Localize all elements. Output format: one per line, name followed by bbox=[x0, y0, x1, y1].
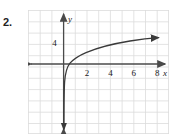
logarithmic-curve bbox=[64, 38, 159, 129]
problem-number: 2. bbox=[3, 17, 12, 28]
y-axis-label: y bbox=[67, 14, 72, 24]
curve-down-arrowhead bbox=[61, 123, 67, 131]
figure-container: 2. bbox=[0, 0, 172, 137]
graph-panel: 4 2 4 6 8 x y bbox=[28, 10, 169, 134]
x-tick-label-6: 6 bbox=[132, 68, 137, 78]
x-tick-label-4: 4 bbox=[108, 68, 113, 78]
y-tick-label-4: 4 bbox=[52, 38, 57, 48]
coordinate-plane-graph: 4 2 4 6 8 x y bbox=[28, 10, 169, 134]
x-tick-label-2: 2 bbox=[85, 68, 90, 78]
x-axis-label: x bbox=[162, 68, 167, 78]
x-tick-label-8: 8 bbox=[155, 68, 160, 78]
grid-lines bbox=[28, 10, 169, 134]
